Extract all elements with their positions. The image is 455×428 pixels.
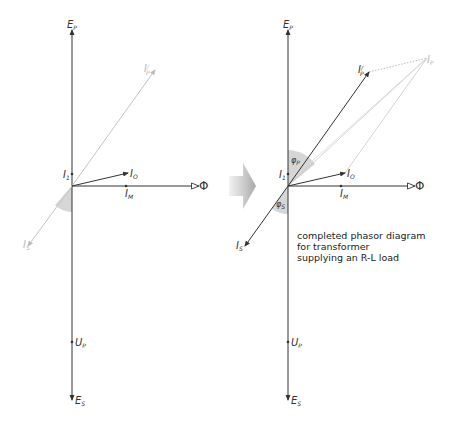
label-ip: IP (427, 54, 434, 66)
label-im: IM (125, 188, 134, 200)
phasor-diagram-canvas: EP I/P I1 IO IM Φ IS UP ES (0, 0, 455, 428)
label-ep: EP (67, 19, 77, 31)
right-phasor-diagram: EP I/P IP I1 IO IM Φ φP φS IS UP ES (236, 19, 434, 407)
label-i1: I1 (279, 169, 286, 181)
label-es: ES (75, 395, 85, 407)
label-up: UP (75, 337, 86, 349)
is-phasor-faint (28, 186, 72, 246)
label-phi: Φ (199, 179, 208, 193)
im-marker (125, 185, 128, 188)
label-ep: EP (283, 19, 293, 31)
left-phasor-diagram: EP I/P I1 IO IM Φ IS UP ES (23, 19, 208, 407)
label-ip-prime: I/P (358, 64, 364, 77)
i1-marker (287, 173, 290, 176)
up-marker (287, 341, 290, 344)
label-is: IS (236, 240, 243, 252)
ip-prime-phasor (288, 72, 369, 186)
label-es: ES (291, 395, 301, 407)
label-i1: I1 (63, 169, 70, 181)
label-ip-prime: I/P (144, 63, 150, 76)
label-phi: Φ (415, 179, 424, 193)
diagram-caption: completed phasor diagram for transformer… (297, 230, 455, 263)
caption-line-1: completed phasor diagram (297, 230, 455, 241)
label-i0: IO (347, 168, 355, 180)
label-im: IM (340, 188, 349, 200)
i1-marker (71, 173, 74, 176)
label-i0: IO (130, 168, 138, 180)
ip-prime-phasor-faint (72, 70, 155, 186)
construction-line-i0-to-ip (345, 58, 427, 173)
is-phasor (245, 186, 288, 246)
label-is: IS (23, 239, 30, 251)
up-marker (71, 341, 74, 344)
caption-line-3: supplying an R-L load (297, 252, 455, 263)
im-marker (340, 185, 343, 188)
label-up: UP (291, 337, 302, 349)
transition-arrow-icon (229, 163, 256, 209)
caption-line-2: for transformer (297, 241, 455, 252)
